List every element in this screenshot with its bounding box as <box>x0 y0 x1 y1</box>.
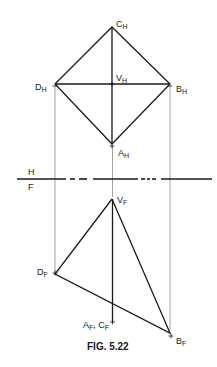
label-v-h: VH <box>116 74 127 84</box>
diagram-figure: CH DH VH BH AH H F VF DF AF, CF BF FIG. … <box>0 0 217 367</box>
front-view <box>55 199 170 333</box>
fold-label-h: H <box>28 168 35 177</box>
figure-caption: FIG. 5.22 <box>87 341 129 352</box>
label-d-f: DF <box>37 268 48 278</box>
label-c-h: CH <box>116 20 128 30</box>
label-a-c-f: AF, CF <box>83 321 109 331</box>
fold-label-f: F <box>28 183 34 192</box>
top-view <box>55 27 170 144</box>
label-d-h: DH <box>35 83 47 93</box>
label-b-h: BH <box>176 85 187 95</box>
label-a-h: AH <box>118 149 129 159</box>
label-b-f: BF <box>176 337 186 347</box>
label-v-f: VF <box>117 196 127 206</box>
